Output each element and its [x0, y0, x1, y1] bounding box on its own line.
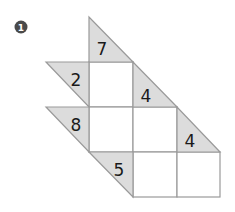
clue-value: 4	[185, 131, 196, 151]
answer-cell-r3c3[interactable]	[177, 152, 220, 197]
clue-value: 7	[97, 39, 108, 59]
clue-down-col2: 4	[133, 62, 177, 107]
puzzle-number-badge: 1	[15, 21, 28, 34]
clue-down-col1: 7	[89, 17, 133, 62]
clue-across-row2: 8	[46, 107, 89, 152]
answer-cell-r2c1[interactable]	[89, 107, 133, 152]
clue-value: 5	[114, 160, 125, 180]
clue-triangle-shape	[89, 152, 133, 197]
clue-triangle-shape	[46, 62, 89, 107]
clue-across-row3: 5	[89, 152, 133, 197]
clue-triangle-shape	[177, 107, 220, 152]
clue-value: 4	[141, 86, 152, 106]
clue-down-col3: 4	[177, 107, 220, 152]
clue-value: 8	[71, 115, 82, 135]
clue-value: 2	[71, 70, 82, 90]
answer-cell-r1c1[interactable]	[89, 62, 133, 107]
clue-across-row1: 2	[46, 62, 89, 107]
puzzle-board: 1 7 2 4 8 4 5	[0, 0, 235, 212]
clue-triangle-shape	[46, 107, 89, 152]
badge-number: 1	[18, 23, 24, 33]
answer-cell-r2c2[interactable]	[133, 107, 177, 152]
answer-cell-r3c2[interactable]	[133, 152, 177, 197]
